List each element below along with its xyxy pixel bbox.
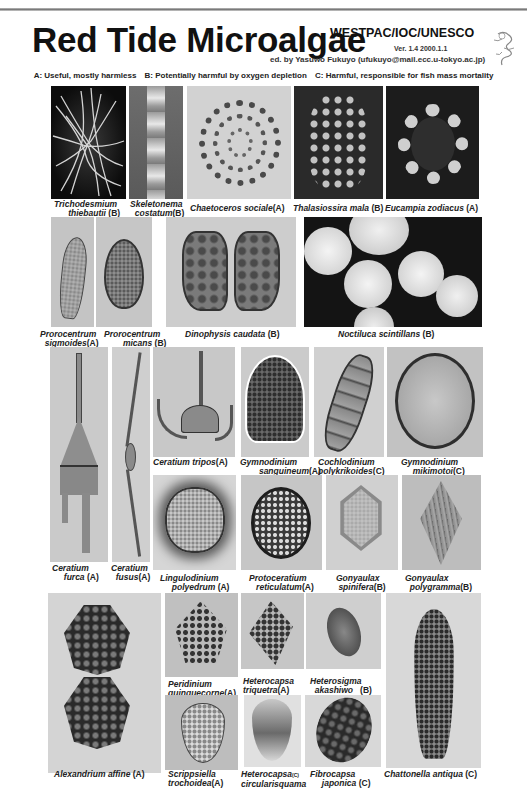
caption-scrippsiella-trochoidea: Scrippsiellatrochoidea(A) xyxy=(168,770,223,788)
genus-name: Chattonella xyxy=(384,769,430,779)
photo-peridinium-quinquecorne xyxy=(165,593,238,677)
category-badge: (A) xyxy=(216,457,228,467)
caption-ceratium-fusus: Ceratium fusus(A) xyxy=(111,564,150,582)
photo-chattonella-antiqua xyxy=(386,593,481,768)
photo-cochlodinium-polykrikoides xyxy=(314,347,384,457)
caption-gonyaulax-spinifera: Gonyaulax spinifera(B) xyxy=(336,574,386,592)
genus-name: Thalasiossira xyxy=(293,203,347,213)
species-name: zodiacus xyxy=(428,203,464,213)
caption-chattonella-antiqua: Chattonella antiqua (C) xyxy=(384,770,477,779)
genus-name: Ceratium xyxy=(153,457,190,467)
category-badge: (A) xyxy=(466,203,478,213)
category-badge: (A) xyxy=(87,572,99,582)
category-badge: (C) xyxy=(292,772,299,778)
photo-ceratium-fusus xyxy=(112,347,150,562)
species-name: circularisquama xyxy=(241,779,306,789)
photo-thalasiossira-mala xyxy=(294,86,383,199)
species-name: akashiwo xyxy=(315,685,353,695)
genus-name: Eucampia xyxy=(385,203,425,213)
caption-chaetoceros-sociale: Chaetoceros sociale(A) xyxy=(190,204,285,213)
category-badge: (C) xyxy=(359,778,371,788)
category-badge: (B) xyxy=(268,329,280,339)
version-date: Ver. 1.4 2000.1.1 xyxy=(394,45,447,52)
photo-ceratium-tripos xyxy=(153,347,235,457)
photo-fibrocapsa-japonica xyxy=(305,695,381,767)
category-badge: (B) xyxy=(360,685,372,695)
caption-heterocapsa-circularisquama: Heterocapsa(C)circularisquama xyxy=(241,770,306,789)
category-badge: (A) xyxy=(138,572,150,582)
category-badge: (A) xyxy=(218,582,230,592)
photo-gymnodinium-mikimotoi xyxy=(387,347,483,457)
species-name: furca xyxy=(64,572,85,582)
caption-skeletonema-costatum: Skeletonema costatum(B) xyxy=(130,200,184,218)
caption-ceratium-tripos: Ceratium tripos(A) xyxy=(153,458,228,467)
photo-prorocentrum-sigmoides xyxy=(51,217,94,327)
species-name: antiqua xyxy=(433,769,463,779)
legend-category-c: C: Harmful, responsible for fish mass mo… xyxy=(315,71,493,80)
caption-gymnodinium-mikimotoi: Gymnodinium mikimotoi(C) xyxy=(401,458,465,476)
photo-prorocentrum-micans xyxy=(96,217,152,327)
category-badge: (A) xyxy=(277,685,289,695)
genus-name: Heterocapsa xyxy=(241,769,292,779)
organization: WESTPAC/IOC/UNESCO xyxy=(330,26,474,40)
genus-name: Dinophysis xyxy=(185,329,231,339)
species-name: tripos xyxy=(192,457,216,467)
legend-category-b: B: Potentially harmful by oxygen depleti… xyxy=(145,71,307,80)
caption-noctiluca-scintillans: Noctiluca scintillans (B) xyxy=(338,330,434,339)
caption-trichodesmium-thiebautii: Trichodesmium thiebautii (B) xyxy=(54,200,120,218)
caption-thalasiossira-mala: Thalasiossira mala (B) xyxy=(293,204,383,213)
genus-name: Chaetoceros xyxy=(190,203,242,213)
photo-heterocapsa-circularisquama xyxy=(244,695,301,767)
photo-lingulodinium-polyedrum xyxy=(153,475,236,570)
photo-heterocapsa-triquetra xyxy=(241,593,304,669)
page-title: Red Tide Microalgae xyxy=(32,20,366,60)
photo-alexandrium-affine xyxy=(48,593,161,773)
caption-protoceratium-reticulatum: Protoceratium reticulatum(A) xyxy=(249,574,314,592)
photo-noctiluca-scintillans xyxy=(304,217,482,327)
category-badge: (A) xyxy=(211,778,223,788)
category-legend: A: Useful, mostly harmless B: Potentiall… xyxy=(0,71,527,80)
caption-ceratium-furca: Ceratium furca (A) xyxy=(52,564,99,582)
category-badge: (A) xyxy=(302,582,314,592)
caption-cochlodinium-polykrikoides: Cochlodiniumpolykrikoides(C) xyxy=(318,458,385,476)
photo-eucampia-zodiacus xyxy=(386,86,479,199)
category-badge: (B) xyxy=(423,329,435,339)
species-name: reticulatum xyxy=(256,582,302,592)
genus-name: Alexandrium xyxy=(54,769,106,779)
species-name: caudata xyxy=(233,329,265,339)
species-name: fusus xyxy=(116,572,139,582)
caption-fibrocapsa-japonica: Fibrocapsa japonica (C) xyxy=(310,770,370,788)
caption-lingulodinium-polyedrum: Lingulodinium polyedrum (A) xyxy=(160,574,229,592)
caption-eucampia-zodiacus: Eucampia zodiacus (A) xyxy=(385,204,478,213)
photo-trichodesmium-thiebautii xyxy=(51,86,126,199)
photo-heterosigma-akashiwo xyxy=(306,593,381,669)
photo-skeletonema-costatum xyxy=(129,86,183,199)
photo-protoceratium-reticulatum xyxy=(241,475,322,570)
caption-alexandrium-affine: Alexandrium affine (A) xyxy=(54,770,145,779)
westpac-hab-logo-icon xyxy=(490,30,516,68)
top-rule xyxy=(0,8,527,11)
photo-gymnodinium-sanguineum xyxy=(241,347,309,457)
caption-heterosigma-akashiwo: Heterosigma akashiwo (B) xyxy=(310,677,372,695)
genus-name: Noctiluca xyxy=(338,329,376,339)
caption-gymnodinium-sanguineum: Gymnodinium sanguineum(A) xyxy=(240,458,321,476)
caption-prorocentrum-micans: Prorocentrum micans (B) xyxy=(104,330,166,348)
photo-chaetoceros-sociale xyxy=(187,86,291,199)
editor-credit: ed. by Yasuwo Fukuyo (ufukuyo@mail.ecc.u… xyxy=(270,55,485,64)
species-name: triquetra xyxy=(243,685,277,695)
species-name: japonica xyxy=(322,778,356,788)
legend-category-a: A: Useful, mostly harmless xyxy=(34,71,137,80)
species-name: polygramma xyxy=(410,582,461,592)
species-name: affine xyxy=(108,769,131,779)
caption-prorocentrum-sigmoides: Prorocentrum sigmoides(A) xyxy=(40,330,99,348)
category-badge: (B) xyxy=(374,582,386,592)
category-badge: (A) xyxy=(133,769,145,779)
category-badge: (B) xyxy=(371,203,383,213)
species-name: sociale xyxy=(244,203,273,213)
species-name: scintillans xyxy=(379,329,421,339)
photo-gonyaulax-polygramma xyxy=(402,475,481,570)
category-badge: (B) xyxy=(460,582,472,592)
caption-heterocapsa-triquetra: Heterocapsatriquetra(A) xyxy=(243,677,294,695)
species-name: trochoidea xyxy=(168,778,211,788)
photo-dinophysis-caudata xyxy=(166,217,296,327)
